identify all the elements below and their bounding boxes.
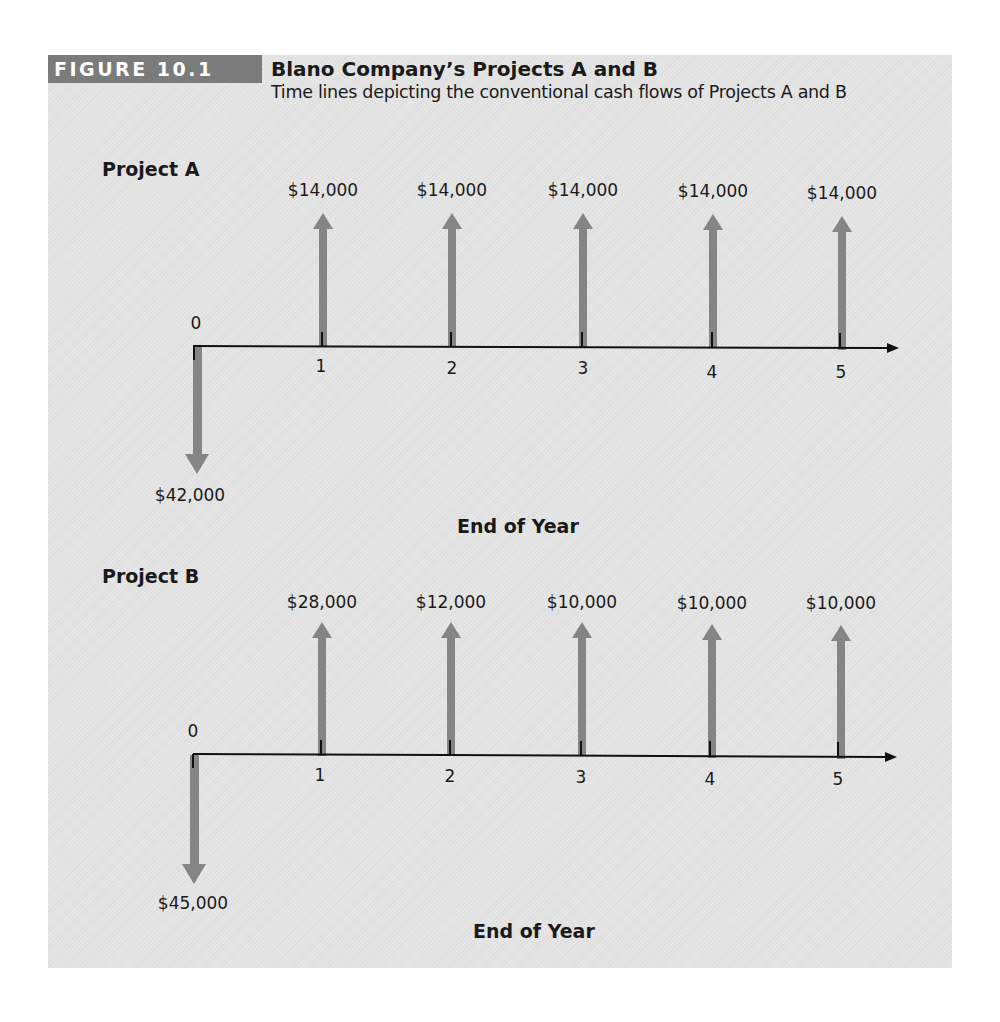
year-label: 1 [316, 356, 327, 376]
year-label: 3 [576, 767, 587, 787]
inflow-arrow-icon [442, 213, 462, 347]
year-label: 2 [447, 358, 458, 378]
year-label: 5 [833, 769, 844, 789]
inflow-label: $10,000 [806, 593, 876, 613]
inflow-arrow-icon [572, 622, 592, 756]
project-b-label: Project B [102, 565, 199, 587]
project-b-timeline [182, 622, 897, 884]
inflow-arrow-icon [313, 213, 333, 347]
year-label: 4 [705, 769, 716, 789]
inflow-label: $14,000 [548, 180, 618, 200]
inflow-label: $10,000 [547, 592, 617, 612]
axis-arrowhead-icon [885, 752, 897, 762]
axis-arrowhead-icon [887, 343, 899, 353]
inflow-label: $14,000 [678, 181, 748, 201]
outflow-label: $45,000 [158, 893, 228, 913]
inflow-arrow-icon [312, 622, 332, 756]
inflow-arrow-icon [702, 624, 722, 758]
inflow-label: $14,000 [288, 180, 358, 200]
inflow-arrow-icon [573, 213, 593, 347]
year-label: 4 [707, 362, 718, 382]
inflow-label: $10,000 [677, 593, 747, 613]
timeline-diagram [0, 0, 1000, 1022]
inflow-arrow-icon [832, 216, 852, 350]
year-label: 1 [315, 765, 326, 785]
year-label: 5 [836, 362, 847, 382]
project-a-timeline [185, 213, 899, 474]
year-label: 3 [578, 358, 589, 378]
year-label: 2 [445, 766, 456, 786]
axis-label: End of Year [473, 920, 595, 942]
inflow-arrow-icon [831, 625, 851, 759]
outflow-label: $42,000 [155, 485, 225, 505]
outflow-arrow-icon [182, 755, 206, 884]
inflow-arrow-icon [441, 622, 461, 756]
inflow-arrow-icon [703, 214, 723, 348]
year-label: 0 [191, 313, 202, 333]
inflow-label: $14,000 [807, 183, 877, 203]
year-label: 0 [188, 721, 199, 741]
inflow-label: $28,000 [287, 592, 357, 612]
inflow-label: $12,000 [416, 592, 486, 612]
axis-label: End of Year [457, 515, 579, 537]
inflow-label: $14,000 [417, 180, 487, 200]
outflow-arrow-icon [185, 346, 209, 474]
